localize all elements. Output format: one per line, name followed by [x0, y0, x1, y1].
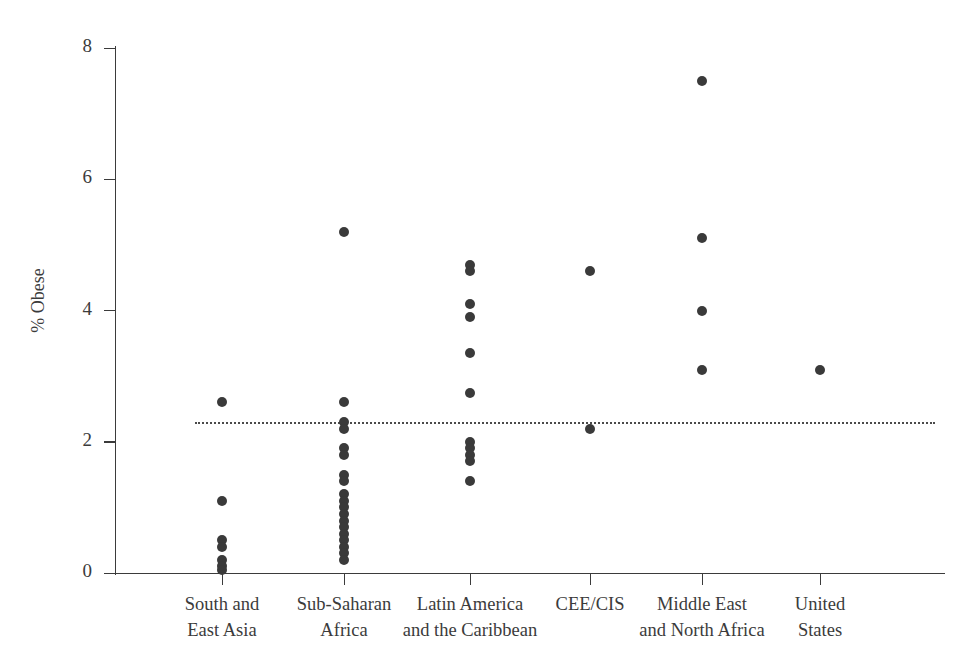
- data-point: [465, 476, 475, 486]
- x-category-label-0: South andEast Asia: [185, 591, 260, 644]
- data-point: [339, 397, 349, 407]
- x-category-label-2: Latin Americaand the Caribbean: [403, 591, 538, 644]
- data-point: [217, 397, 227, 407]
- x-category-label-line: Africa: [297, 617, 392, 643]
- data-point: [585, 266, 595, 276]
- y-tick-4: [104, 310, 115, 311]
- data-point: [697, 365, 707, 375]
- x-category-label-3: CEE/CIS: [556, 591, 625, 617]
- y-tick-8: [104, 48, 115, 49]
- data-point: [217, 542, 227, 552]
- x-category-label-5: UnitedStates: [795, 591, 845, 644]
- data-point: [339, 555, 349, 565]
- data-point: [217, 496, 227, 506]
- x-category-label-line: and North Africa: [639, 617, 764, 643]
- x-category-label-line: and the Caribbean: [403, 617, 538, 643]
- data-point: [697, 306, 707, 316]
- reference-line: [195, 422, 935, 424]
- data-point: [339, 424, 349, 434]
- data-point: [465, 312, 475, 322]
- y-axis-line: [115, 46, 116, 575]
- x-category-label-line: South and: [185, 591, 260, 617]
- data-point: [815, 365, 825, 375]
- y-tick-label-8: 8: [52, 36, 92, 55]
- x-tick-5: [820, 574, 821, 585]
- data-point: [465, 348, 475, 358]
- x-category-label-line: East Asia: [185, 617, 260, 643]
- data-point: [465, 266, 475, 276]
- data-point: [697, 76, 707, 86]
- x-tick-4: [702, 574, 703, 585]
- x-category-label-line: Latin America: [403, 591, 538, 617]
- x-tick-3: [590, 574, 591, 585]
- y-tick-label-2: 2: [52, 430, 92, 449]
- y-axis-title: % Obese: [28, 241, 49, 361]
- data-point: [697, 233, 707, 243]
- obesity-dot-plot-figure: % Obese 02468 South andEast AsiaSub-Saha…: [0, 0, 976, 663]
- x-tick-0: [222, 574, 223, 585]
- y-tick-label-4: 4: [52, 299, 92, 318]
- x-category-label-line: Sub-Saharan: [297, 591, 392, 617]
- data-point: [339, 227, 349, 237]
- x-category-label-line: States: [795, 617, 845, 643]
- data-point: [339, 450, 349, 460]
- data-point: [465, 299, 475, 309]
- y-tick-2: [104, 441, 115, 442]
- x-category-label-line: Middle East: [639, 591, 764, 617]
- data-point: [585, 424, 595, 434]
- data-point: [217, 565, 227, 575]
- y-tick-0: [104, 573, 115, 574]
- x-category-label-1: Sub-SaharanAfrica: [297, 591, 392, 644]
- data-point: [465, 388, 475, 398]
- x-tick-2: [470, 574, 471, 585]
- y-tick-label-6: 6: [52, 167, 92, 186]
- x-category-label-4: Middle Eastand North Africa: [639, 591, 764, 644]
- x-category-label-line: United: [795, 591, 845, 617]
- x-category-label-line: CEE/CIS: [556, 591, 625, 617]
- data-point: [465, 456, 475, 466]
- x-tick-1: [344, 574, 345, 585]
- data-point: [339, 476, 349, 486]
- y-tick-6: [104, 179, 115, 180]
- y-tick-label-0: 0: [52, 561, 92, 580]
